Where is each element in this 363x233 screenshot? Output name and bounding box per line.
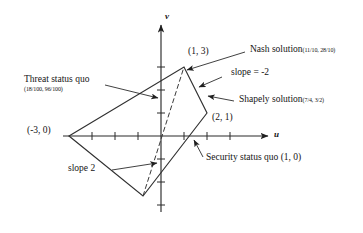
nash-solution-annotation: Nash solution(11/10, 28/10) bbox=[250, 45, 335, 55]
slope-neg2-leader-line bbox=[199, 77, 222, 87]
u-axis-label: u bbox=[274, 130, 279, 139]
security-status-quo-label: Security status quo (1, 0) bbox=[206, 153, 301, 163]
security-leader-line bbox=[194, 140, 203, 157]
threat-status-quo-annotation: Threat status quo (18/100, 96/100) bbox=[24, 74, 89, 93]
slope-neg2-label: slope = -2 bbox=[231, 68, 269, 78]
shapely-solution-coords: (7/4, 3/2) bbox=[303, 97, 324, 103]
threat-status-quo-coords: (18/100, 96/100) bbox=[24, 86, 89, 94]
vertex-label-top: (1, 3) bbox=[188, 47, 209, 57]
shapely-leader-line bbox=[208, 96, 234, 101]
nash-solution-coords: (11/10, 28/10) bbox=[303, 47, 336, 53]
slope-2-line bbox=[143, 67, 184, 196]
nash-solution-label: Nash solution bbox=[250, 44, 303, 54]
v-axis-label: v bbox=[165, 12, 169, 21]
payoff-region-figure: u v (1, 3) (2, 1) (-3, 0) Nash solution(… bbox=[0, 0, 363, 233]
shapely-solution-label: Shapely solution bbox=[239, 94, 303, 104]
shapely-solution-annotation: Shapely solution(7/4, 3/2) bbox=[239, 95, 324, 105]
feasible-payoff-region bbox=[69, 67, 207, 196]
slope-2-label: slope 2 bbox=[68, 164, 95, 174]
axis-lines bbox=[63, 25, 268, 212]
slope-2-leader-line bbox=[112, 163, 157, 170]
vertex-label-right: (2, 1) bbox=[212, 113, 233, 123]
threat-status-quo-label: Threat status quo bbox=[24, 74, 89, 86]
vertex-label-left: (-3, 0) bbox=[27, 126, 51, 136]
plot-canvas bbox=[0, 0, 363, 233]
